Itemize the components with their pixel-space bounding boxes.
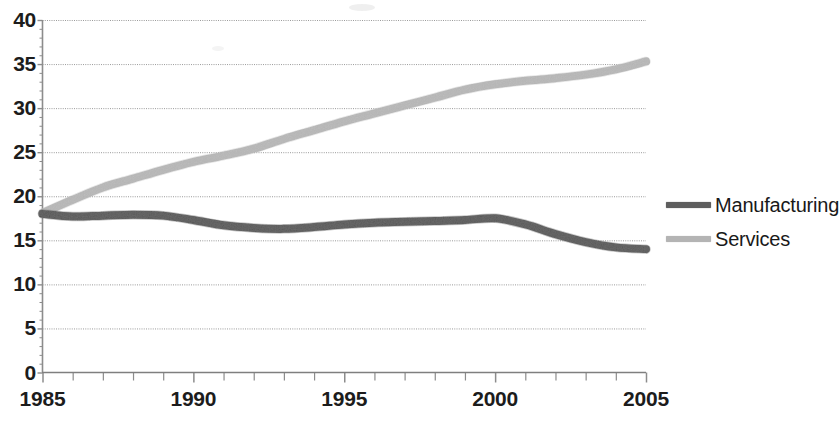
x-axis-tick-label: 1985 xyxy=(0,388,88,409)
scan-artifact-speck xyxy=(212,46,224,51)
x-axis-tick-label: 2005 xyxy=(601,388,691,409)
x-axis-tick-label: 2000 xyxy=(450,388,540,409)
y-axis-tick-label: 40 xyxy=(2,9,36,30)
y-axis-tick-label: 0 xyxy=(2,362,36,383)
y-axis-tick-label: 25 xyxy=(2,141,36,162)
x-axis-tick-label: 1990 xyxy=(148,388,238,409)
legend-swatch-manufacturing xyxy=(666,202,711,208)
y-axis-tick-label: 10 xyxy=(2,273,36,294)
data-series-layer xyxy=(43,61,647,249)
series-manufacturing xyxy=(43,214,647,249)
series-line xyxy=(43,61,647,213)
y-axis-tick-label: 20 xyxy=(2,185,36,206)
y-axis-tick-label: 30 xyxy=(2,97,36,118)
legend-label-services: Services xyxy=(715,229,790,249)
chart-legend: Manufacturing Services xyxy=(666,188,837,256)
y-axis-tick-label: 35 xyxy=(2,53,36,74)
y-axis-tick-label: 5 xyxy=(2,317,36,338)
series-halo xyxy=(43,61,647,213)
legend-item-manufacturing: Manufacturing xyxy=(666,188,837,222)
legend-swatch-services xyxy=(666,236,711,242)
x-axis-minor-ticks xyxy=(43,373,647,383)
scan-artifact-speck xyxy=(349,4,375,11)
legend-label-manufacturing: Manufacturing xyxy=(715,195,839,215)
y-axis-tick-label: 15 xyxy=(2,229,36,250)
x-axis-tick-label: 1995 xyxy=(299,388,389,409)
legend-item-services: Services xyxy=(666,222,837,256)
series-services xyxy=(43,61,647,213)
